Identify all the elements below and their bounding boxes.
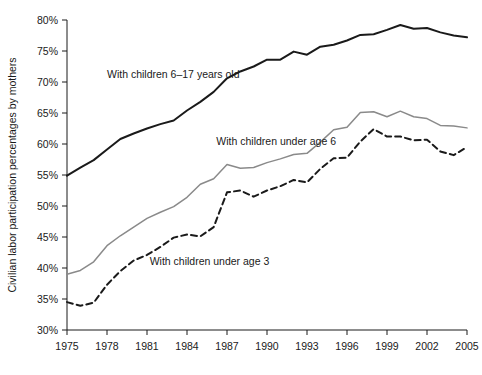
y-tick-label: 75% <box>37 45 58 57</box>
x-tick-label: 1987 <box>215 340 239 352</box>
series-label: With children under age 6 <box>216 135 336 147</box>
y-axis-ticks: 30%35%40%45%50%55%60%65%70%75%80% <box>37 14 67 336</box>
x-tick-label: 1975 <box>55 340 79 352</box>
figure-footnote <box>0 367 482 375</box>
y-tick-label: 55% <box>37 169 58 181</box>
y-tick-label: 60% <box>37 138 58 150</box>
x-tick-label: 2005 <box>455 340 479 352</box>
series-label: With children under age 3 <box>150 255 270 267</box>
chart-figure: 30%35%40%45%50%55%60%65%70%75%80% 197519… <box>0 0 482 375</box>
x-tick-label: 1993 <box>295 340 319 352</box>
y-tick-label: 45% <box>37 231 58 243</box>
line-chart: 30%35%40%45%50%55%60%65%70%75%80% 197519… <box>0 0 482 375</box>
x-tick-label: 1984 <box>175 340 199 352</box>
x-tick-label: 1978 <box>95 340 119 352</box>
x-tick-label: 1981 <box>135 340 159 352</box>
series-annotations: With children 6–17 years oldWith childre… <box>107 68 336 267</box>
y-tick-label: 50% <box>37 200 58 212</box>
series-line <box>67 25 467 176</box>
x-tick-label: 2002 <box>415 340 439 352</box>
y-tick-label: 70% <box>37 76 58 88</box>
x-tick-label: 1996 <box>335 340 359 352</box>
y-tick-label: 80% <box>37 14 58 26</box>
x-axis-ticks: 1975197819811984198719901993199619992002… <box>55 330 479 352</box>
x-tick-label: 1990 <box>255 340 279 352</box>
y-tick-label: 30% <box>37 324 58 336</box>
series-line <box>67 129 467 306</box>
y-tick-label: 40% <box>37 262 58 274</box>
y-tick-label: 65% <box>37 107 58 119</box>
y-axis-title: Civilian labor participation percentages… <box>6 57 18 292</box>
x-tick-label: 1999 <box>375 340 399 352</box>
y-tick-label: 35% <box>37 293 58 305</box>
series-label: With children 6–17 years old <box>107 68 240 80</box>
